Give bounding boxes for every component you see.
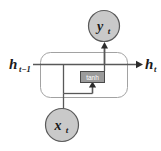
output-node-label: y: [95, 19, 104, 34]
hidden-out-label: h: [145, 56, 153, 72]
output-node-circle[interactable]: [89, 11, 120, 42]
hidden-out-label-subscript: t: [154, 64, 157, 74]
hidden-in-label: h: [9, 56, 17, 72]
output-arrowhead: [101, 42, 108, 49]
diagram-canvas: tanh y t x t h t−1 h t: [0, 0, 161, 151]
tanh-gate-label: tanh: [86, 74, 99, 81]
input-node-circle[interactable]: [46, 109, 79, 142]
rnn-cell-diagram: tanh y t x t h t−1 h t: [0, 0, 161, 151]
input-node-label: x: [54, 118, 62, 133]
hidden-out-arrowhead: [136, 61, 143, 68]
hidden-in-label-subscript: t−1: [19, 64, 31, 74]
